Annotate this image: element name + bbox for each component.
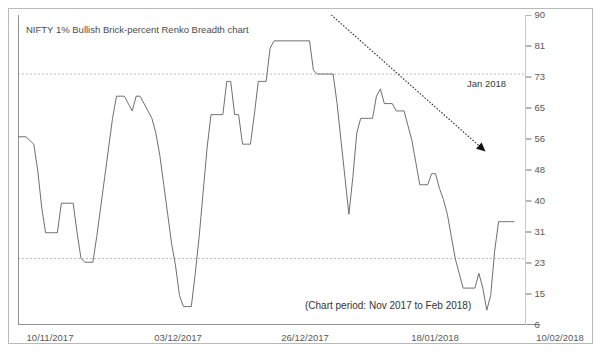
data-series-line [18, 41, 514, 310]
plot-area: 908173655648403123156 10/11/201703/12/20… [18, 15, 540, 325]
gridlines-group [18, 74, 526, 259]
y-tick-label: 90 [535, 9, 546, 20]
chart-period-note: (Chart period: Nov 2017 to Feb 2018) [305, 300, 471, 311]
chart-screenshot: NIFTY 1% Bullish Brick-percent Renko Bre… [0, 0, 601, 360]
arrow-annotation-group [317, 15, 486, 152]
y-tick-label: 6 [535, 319, 540, 330]
tickmarks-group [50, 15, 540, 325]
y-tick-label: 73 [535, 71, 546, 82]
annotation-label-jan-2018: Jan 2018 [467, 78, 506, 89]
annotation-arrow-head [476, 142, 486, 151]
x-tick-label: 10/11/2017 [27, 332, 74, 343]
y-tick-label: 40 [535, 195, 546, 206]
y-tick-label: 23 [535, 257, 546, 268]
y-tick-label: 48 [535, 164, 546, 175]
annotation-arrow-shaft [317, 15, 481, 147]
y-tick-label: 15 [535, 288, 546, 299]
x-tick-label: 18/01/2018 [411, 332, 459, 343]
x-tick-label: 03/12/2017 [154, 332, 202, 343]
y-tick-label: 65 [535, 102, 546, 113]
x-tick-label: 26/12/2017 [281, 332, 329, 343]
x-tick-label: 10/02/2018 [536, 332, 584, 343]
y-tick-label: 31 [535, 226, 546, 237]
chart-plot-svg [18, 15, 540, 325]
y-tick-label: 56 [535, 133, 546, 144]
y-tick-label: 81 [535, 40, 546, 51]
